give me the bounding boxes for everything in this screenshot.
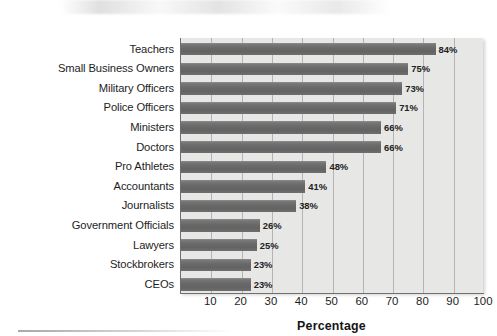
- bar-value-label: 23%: [254, 255, 273, 275]
- bar-value-label: 38%: [299, 196, 318, 216]
- category-label: Journalists: [40, 196, 174, 216]
- category-label: Police Officers: [40, 98, 174, 118]
- category-label: Small Business Owners: [40, 59, 174, 79]
- x-tick-label: 40: [295, 295, 308, 307]
- bar-value-label: 23%: [254, 275, 273, 295]
- bar-value-labels: 84%75%73%71%66%66%48%41%38%26%25%23%23%: [180, 38, 497, 293]
- x-tick-label: 50: [325, 295, 338, 307]
- category-label: Ministers: [40, 118, 174, 138]
- category-label: Accountants: [40, 177, 174, 197]
- x-tick-label: 70: [386, 295, 399, 307]
- x-tick-label: 60: [355, 295, 368, 307]
- x-axis-tick-labels: 102030405060708090100: [180, 295, 497, 313]
- category-label: Pro Athletes: [40, 157, 174, 177]
- bar-value-label: 48%: [329, 157, 348, 177]
- category-label: CEOs: [40, 275, 174, 295]
- bar-value-label: 84%: [439, 40, 458, 60]
- bar-value-label: 71%: [399, 98, 418, 118]
- x-axis-line: [180, 293, 484, 294]
- category-label: Military Officers: [40, 79, 174, 99]
- bar-value-label: 66%: [384, 118, 403, 138]
- bar-value-label: 73%: [405, 79, 424, 99]
- category-label: Government Officials: [40, 216, 174, 236]
- bar-value-label: 66%: [384, 138, 403, 158]
- category-label: Stockbrokers: [40, 255, 174, 275]
- x-tick-label: 20: [234, 295, 247, 307]
- x-tick-label: 90: [446, 295, 459, 307]
- horizontal-bar-chart: TeachersSmall Business OwnersMilitary Of…: [40, 16, 497, 336]
- bar-value-label: 26%: [263, 216, 282, 236]
- x-axis-title: Percentage: [180, 319, 483, 333]
- category-label: Teachers: [40, 40, 174, 60]
- bar-value-label: 25%: [260, 236, 279, 256]
- category-label: Doctors: [40, 138, 174, 158]
- scan-artifact-top: [60, 0, 390, 14]
- category-axis-labels: TeachersSmall Business OwnersMilitary Of…: [40, 38, 174, 293]
- x-tick-label: 10: [204, 295, 217, 307]
- x-tick-label: 80: [416, 295, 429, 307]
- x-tick-label: 30: [265, 295, 278, 307]
- category-label: Lawyers: [40, 236, 174, 256]
- bar-value-label: 41%: [308, 177, 327, 197]
- bar-value-label: 75%: [411, 59, 430, 79]
- x-tick-label: 100: [473, 295, 492, 307]
